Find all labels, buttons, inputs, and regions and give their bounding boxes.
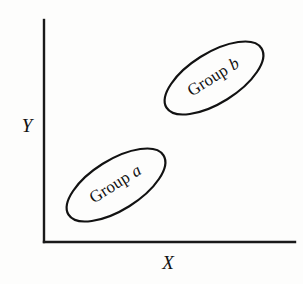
figure-canvas: Group a Group b Y X bbox=[0, 0, 303, 284]
cluster-label-a: Group a bbox=[86, 160, 145, 207]
cluster-label-b: Group b bbox=[184, 53, 243, 100]
cluster-scatter-figure: Group a Group b Y X bbox=[0, 0, 303, 284]
y-axis-label: Y bbox=[22, 115, 35, 136]
x-axis-label: X bbox=[161, 252, 175, 273]
